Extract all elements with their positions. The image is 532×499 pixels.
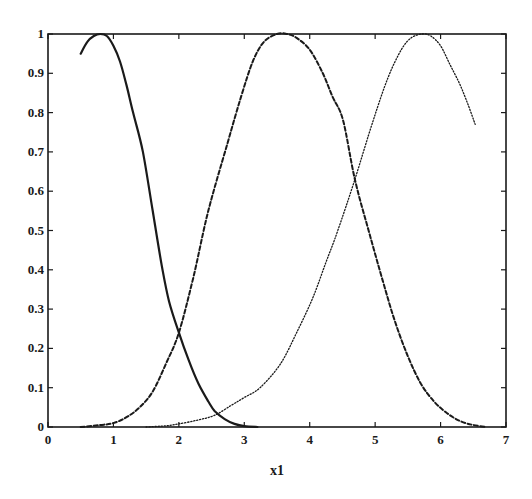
x-axis-title: x1 xyxy=(270,463,284,478)
y-tick-label: 0.2 xyxy=(28,340,44,355)
series-dotted-curve xyxy=(146,34,475,427)
x-tick-label: 1 xyxy=(110,432,117,447)
x-tick-label: 5 xyxy=(372,432,379,447)
y-tick-label: 0.1 xyxy=(28,380,44,395)
x-tick-label: 3 xyxy=(241,432,248,447)
x-tick-label: 4 xyxy=(306,432,313,447)
y-tick-label: 1 xyxy=(38,26,45,41)
plot-border xyxy=(48,34,506,427)
y-tick-label: 0.8 xyxy=(28,105,45,120)
y-tick-label: 0.6 xyxy=(28,183,45,198)
x-tick-label: 6 xyxy=(437,432,444,447)
y-tick-label: 0.9 xyxy=(28,65,45,80)
series-layer xyxy=(81,33,487,427)
x-axis: 01234567 xyxy=(45,34,510,447)
x-tick-label: 0 xyxy=(45,432,52,447)
series-dashed-curve xyxy=(81,33,487,427)
y-tick-label: 0.7 xyxy=(28,144,45,159)
cropped-caption xyxy=(0,494,532,499)
y-axis: 00.10.20.30.40.50.60.70.80.91 xyxy=(28,26,506,434)
series-solid-curve xyxy=(81,34,258,427)
y-tick-label: 0 xyxy=(38,419,45,434)
chart: 00.10.20.30.40.50.60.70.80.91 01234567 x… xyxy=(0,0,532,499)
plot-frame xyxy=(48,34,506,427)
x-tick-label: 2 xyxy=(176,432,183,447)
y-tick-label: 0.3 xyxy=(28,301,45,316)
x-tick-label: 7 xyxy=(503,432,510,447)
y-tick-label: 0.5 xyxy=(28,223,45,238)
y-tick-label: 0.4 xyxy=(28,262,45,277)
